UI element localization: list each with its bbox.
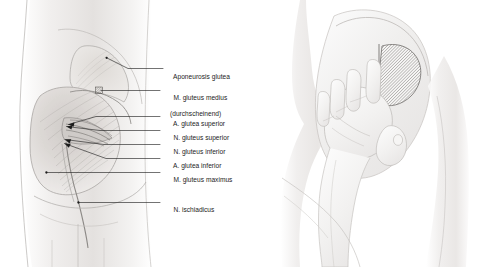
illustration-layer <box>0 0 486 267</box>
anatomical-plate: Aponeurosis glutea M. gluteus medius (du… <box>0 0 486 267</box>
label-m-gluteus-maximus: M. gluteus maximus <box>166 168 232 193</box>
label-text: Aponeurosis glutea <box>173 73 230 80</box>
label-text: M. gluteus maximus <box>173 176 232 183</box>
gluteus-medius-hatch-marker <box>96 87 103 94</box>
right-figure-body <box>281 0 469 267</box>
label-text: N. ischiadicus <box>173 206 214 213</box>
label-n-ischiadicus: N. ischiadicus <box>166 198 214 223</box>
left-figure-body <box>20 0 152 267</box>
label-text: M. gluteus medius <box>173 94 227 101</box>
